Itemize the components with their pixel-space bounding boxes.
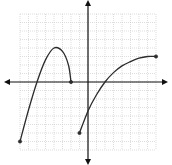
- arrow-up-icon: [85, 0, 91, 6]
- curve-right: [80, 56, 157, 133]
- endpoint-dot: [154, 55, 157, 58]
- function-graph: [0, 0, 172, 165]
- endpoint-dot: [18, 140, 21, 143]
- endpoint-dot: [69, 80, 72, 83]
- arrow-right-icon: [162, 79, 168, 85]
- arrow-down-icon: [85, 159, 91, 165]
- arrow-left-icon: [4, 79, 10, 85]
- endpoint-dot: [78, 131, 81, 134]
